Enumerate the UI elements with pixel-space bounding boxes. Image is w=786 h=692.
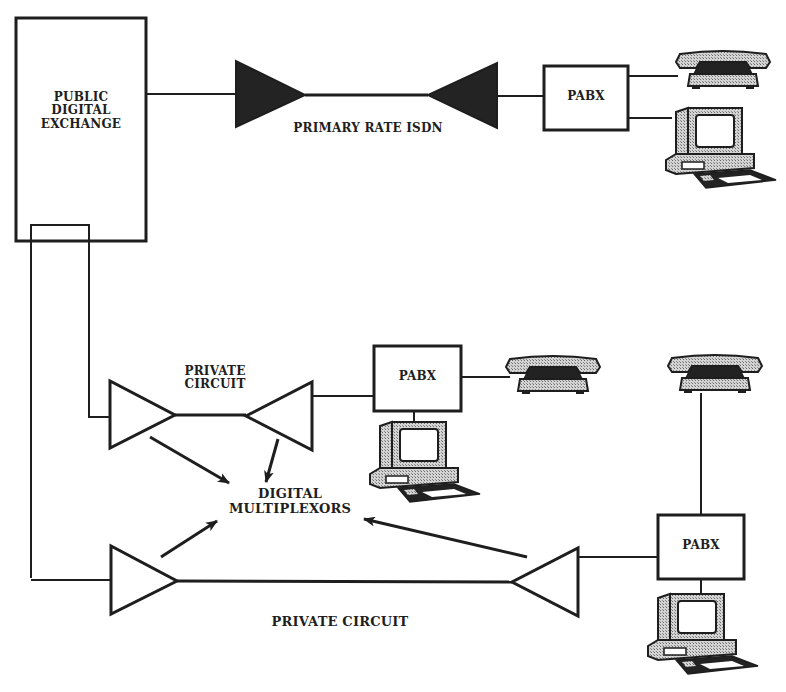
telephone-icon [668,355,762,393]
pabx-top-label: PABX [544,90,628,103]
computer-terminal-icon [648,594,758,674]
multiplexors-label: DIGITAL MULTIPLEXORS [210,487,370,516]
telephone-icon [506,356,600,394]
telephone-icon [676,51,770,89]
isdn-link [146,61,544,128]
exchange-port-lines [31,225,110,578]
isdn-link-label: PRIMARY RATE ISDN [268,122,468,135]
private-circuit-lower-label: PRIVATE CIRCUIT [240,615,440,630]
private-multiplexor-lower-left-icon [111,546,177,614]
computer-terminal-icon [666,108,776,188]
pabx-middle-label: PABX [374,370,461,383]
exchange-label: PUBLIC DIGITAL EXCHANGE [28,91,134,131]
pabx-bottom-label: PABX [658,539,744,552]
isdn-multiplexor-left-icon [236,61,305,127]
private-multiplexor-lower-right-icon [512,548,578,616]
computer-terminal-icon [370,422,480,502]
private-circuit-lower-link [31,546,658,616]
isdn-multiplexor-right-icon [428,63,497,128]
private-circuit-upper-label: PRIVATE CIRCUIT [160,365,270,392]
